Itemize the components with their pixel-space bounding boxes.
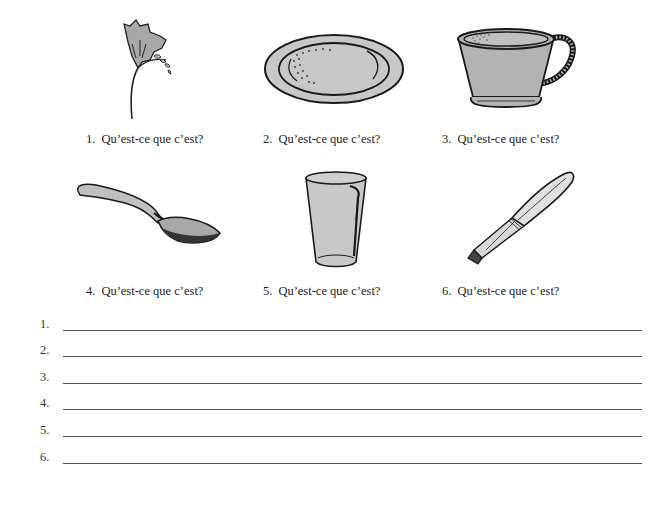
- question-text: Qu’est-ce que c’est?: [278, 284, 380, 298]
- question-number: 5.: [263, 284, 272, 298]
- answer-row-5[interactable]: 5.: [40, 423, 642, 443]
- question-text: Qu’est-ce que c’est?: [457, 132, 559, 146]
- answer-number: 4.: [40, 396, 49, 411]
- answer-line[interactable]: [63, 463, 642, 464]
- question-caption-5: 5.Qu’est-ce que c’est?: [263, 284, 380, 299]
- answer-row-6[interactable]: 6.: [40, 450, 642, 470]
- question-caption-4: 4.Qu’est-ce que c’est?: [86, 284, 203, 299]
- answer-number: 1.: [40, 317, 49, 332]
- cup-icon: [455, 25, 577, 111]
- question-number: 1.: [86, 132, 95, 146]
- question-caption-6: 6.Qu’est-ce que c’est?: [442, 284, 559, 299]
- answer-number: 5.: [40, 423, 49, 438]
- question-text: Qu’est-ce que c’est?: [457, 284, 559, 298]
- answer-line[interactable]: [63, 356, 642, 357]
- answer-line[interactable]: [63, 330, 642, 331]
- flower-icon: [110, 18, 190, 124]
- question-text: Qu’est-ce que c’est?: [101, 132, 203, 146]
- question-number: 2.: [263, 132, 272, 146]
- question-caption-3: 3.Qu’est-ce que c’est?: [442, 132, 559, 147]
- answer-line[interactable]: [63, 409, 642, 410]
- glass-icon: [304, 170, 368, 270]
- question-text: Qu’est-ce que c’est?: [278, 132, 380, 146]
- answer-number: 6.: [40, 450, 49, 465]
- question-number: 3.: [442, 132, 451, 146]
- answer-number: 3.: [40, 370, 49, 385]
- answer-line[interactable]: [63, 436, 642, 437]
- question-caption-1: 1.Qu’est-ce que c’est?: [86, 132, 203, 147]
- answer-row-4[interactable]: 4.: [40, 396, 642, 416]
- answer-line[interactable]: [63, 383, 642, 384]
- answer-row-1[interactable]: 1.: [40, 317, 642, 337]
- plate-icon: [263, 33, 405, 105]
- knife-icon: [468, 170, 576, 268]
- question-caption-2: 2.Qu’est-ce que c’est?: [263, 132, 380, 147]
- question-text: Qu’est-ce que c’est?: [101, 284, 203, 298]
- answer-row-3[interactable]: 3.: [40, 370, 642, 390]
- spoon-icon: [74, 183, 224, 255]
- question-number: 4.: [86, 284, 95, 298]
- answer-number: 2.: [40, 343, 49, 358]
- question-number: 6.: [442, 284, 451, 298]
- answer-row-2[interactable]: 2.: [40, 343, 642, 363]
